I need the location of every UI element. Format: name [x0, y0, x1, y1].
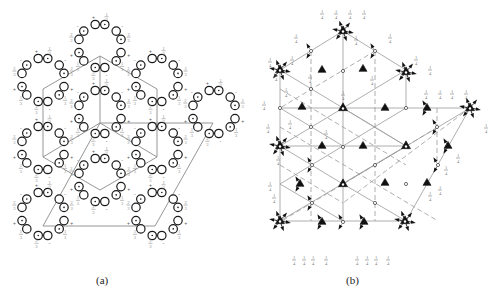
atom-position-circle: [44, 165, 52, 173]
height-fraction: 14: [354, 35, 358, 46]
height-fraction: 13: [76, 195, 80, 206]
svg-text:1: 1: [48, 46, 50, 51]
svg-text:3: 3: [13, 206, 16, 211]
comma-dot: [94, 67, 96, 69]
svg-text:1: 1: [269, 57, 271, 62]
svg-text:3: 3: [191, 133, 194, 138]
svg-text:3: 3: [64, 101, 67, 106]
comma-dot: [26, 198, 28, 200]
svg-text:-: -: [77, 23, 79, 29]
height-fraction: 13: [190, 127, 194, 138]
svg-text:+: +: [127, 52, 130, 58]
atom-position-circle: [169, 61, 177, 69]
height-fraction: +: [184, 118, 187, 124]
atom-position-circle: [101, 197, 109, 205]
svg-text:1: 1: [285, 87, 287, 92]
svg-text:2: 2: [35, 238, 37, 243]
svg-text:+: +: [35, 116, 38, 122]
height-fraction: 14: [362, 9, 366, 20]
svg-text:1: 1: [445, 165, 447, 170]
atom-position-circle: [189, 101, 197, 109]
svg-text:4: 4: [293, 261, 296, 266]
atom-position-circle: [75, 169, 83, 177]
svg-text:3: 3: [35, 110, 38, 115]
height-fraction: +: [149, 182, 152, 188]
svg-text:2: 2: [128, 98, 130, 103]
atom-position-circle: [44, 231, 52, 239]
height-fraction: 14: [424, 89, 428, 100]
comma-dot: [135, 86, 137, 88]
height-fraction: 14: [266, 123, 270, 134]
height-fraction: -: [20, 125, 22, 131]
arrow-icon: [332, 28, 340, 32]
height-fraction: 14: [450, 89, 454, 100]
arrow-icon: [433, 168, 437, 173]
svg-text:4: 4: [277, 161, 280, 166]
inversion-center-icon: [309, 87, 312, 90]
svg-text:+: +: [70, 220, 73, 226]
svg-text:4: 4: [267, 129, 270, 134]
svg-text:1: 1: [263, 100, 265, 105]
svg-text:-: -: [64, 57, 66, 63]
height-fraction: 23: [12, 66, 16, 77]
svg-text:-: -: [178, 191, 180, 197]
position-ring: +13-2313+23-+13-23: [12, 180, 73, 249]
atom-position-circle: [55, 129, 63, 137]
comma-dot: [172, 94, 174, 96]
comma-dot: [47, 58, 49, 60]
svg-text:1: 1: [342, 90, 344, 95]
svg-text:-: -: [178, 57, 180, 63]
atom-position-circle: [55, 61, 63, 69]
atom-position-circle: [174, 216, 182, 224]
svg-text:2: 2: [206, 136, 208, 141]
svg-text:-: -: [220, 138, 222, 144]
comma-dot: [120, 173, 122, 175]
comma-dot: [83, 30, 85, 32]
svg-text:1: 1: [121, 127, 123, 132]
height-fraction: 13: [133, 95, 137, 106]
height-fraction: 23: [241, 98, 245, 109]
atom-position-circle: [18, 137, 26, 145]
svg-text:+: +: [127, 118, 130, 124]
svg-text:4: 4: [363, 15, 366, 20]
arrow-icon: [370, 54, 374, 59]
inversion-center-icon: [436, 163, 439, 166]
height-fraction: 13: [234, 127, 238, 138]
height-fraction: 23: [127, 32, 131, 43]
atom-position-circle: [101, 63, 109, 71]
svg-text:1: 1: [415, 55, 417, 60]
height-fraction: +: [184, 220, 187, 226]
svg-text:2: 2: [92, 70, 94, 75]
svg-text:4: 4: [429, 197, 432, 202]
svg-text:3: 3: [178, 101, 181, 106]
threefold-axis-icon: [381, 178, 389, 185]
svg-text:+: +: [127, 154, 130, 160]
comma-dot: [140, 198, 142, 200]
height-fraction: +: [13, 154, 16, 160]
height-fraction: -: [64, 57, 66, 63]
svg-text:3: 3: [185, 140, 188, 145]
atom-position-circle: [23, 91, 31, 99]
height-fraction: -: [178, 57, 180, 63]
atom-position-circle: [23, 159, 31, 167]
svg-text:4: 4: [309, 79, 312, 84]
glide-line: [280, 165, 343, 203]
svg-text:1: 1: [465, 89, 467, 94]
svg-text:1: 1: [64, 229, 66, 234]
height-fraction: +: [127, 118, 130, 124]
height-fraction: 23: [69, 98, 73, 109]
svg-text:-: -: [20, 191, 22, 197]
panel-a-equivalent-positions: +13-2313+23-+13-23+13-2313+23-+13-23+13-…: [12, 12, 244, 249]
atom-position-circle: [91, 20, 99, 28]
comma-dot: [120, 39, 122, 41]
height-fraction: 13: [19, 95, 23, 106]
height-fraction: +: [127, 220, 130, 226]
height-fraction: +: [70, 154, 73, 160]
atom-position-circle: [169, 195, 177, 203]
svg-text:1: 1: [312, 255, 314, 260]
comma-dot: [78, 186, 80, 188]
comma-dot: [197, 96, 199, 98]
atom-position-circle: [117, 48, 125, 56]
svg-text:+: +: [70, 154, 73, 160]
height-fraction: 13: [177, 163, 181, 174]
